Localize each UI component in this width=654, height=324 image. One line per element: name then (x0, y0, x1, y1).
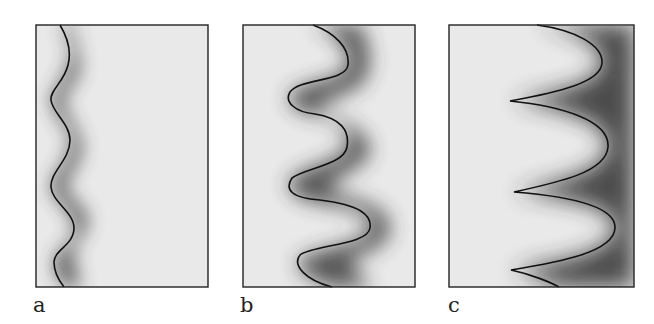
panel-c: c (448, 25, 634, 317)
panel-a: a (33, 25, 208, 317)
figure: a b c (0, 0, 654, 324)
panel-b: b (240, 25, 415, 317)
panel-b-background (243, 25, 415, 287)
panel-a-background (36, 25, 208, 287)
panel-a-label: a (33, 293, 46, 317)
panel-b-label: b (240, 293, 253, 317)
panel-c-label: c (448, 293, 460, 317)
